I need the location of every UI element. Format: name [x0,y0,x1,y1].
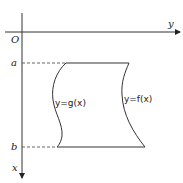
diagram-svg: y O a b x y=g(x) y=f(x) [0,0,183,183]
region-diagram: y O a b x y=g(x) y=f(x) [0,0,183,183]
curve-f-label: y=f(x) [124,94,152,104]
curve-f [122,63,145,147]
bound-b-label: b [11,141,17,152]
x-axis-label: x [12,162,18,173]
bound-a-label: a [11,57,17,68]
y-axis-label: y [167,18,174,29]
origin-label: O [11,34,19,45]
curve-g-label: y=g(x) [55,98,86,108]
